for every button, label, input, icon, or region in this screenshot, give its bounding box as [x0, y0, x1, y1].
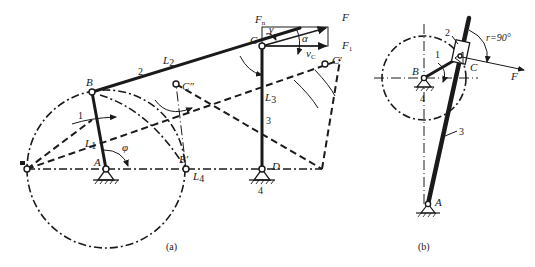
rocker-Cdprime	[176, 84, 322, 169]
label-gamma: γ	[269, 23, 274, 35]
angle-arc-C	[240, 56, 262, 75]
label-F: F	[341, 11, 349, 23]
label-link-2: 2	[138, 66, 143, 77]
gamma-arc-b	[469, 30, 487, 62]
leader-3	[445, 131, 457, 136]
joint-Cdprime	[173, 81, 179, 87]
coupler-link-2	[92, 28, 300, 92]
label-link-2-b: 2	[445, 27, 450, 38]
joint-A	[103, 166, 109, 172]
label-F1: F1	[341, 39, 353, 53]
label-vC: vC	[306, 47, 316, 61]
joint-D	[259, 166, 265, 172]
label-link-1: 1	[78, 110, 83, 121]
label-A: A	[93, 156, 101, 168]
figure-a: B A B′ C C′ C″ D 1 2 3 4 L1 L2 L3 L4 φ γ…	[20, 11, 353, 253]
angle-arc-Cdprime	[155, 100, 192, 112]
label-L3: L3	[264, 91, 276, 105]
label-B-b: B	[412, 65, 419, 77]
label-F-b: F	[510, 70, 518, 82]
label-alpha: α	[302, 32, 308, 44]
arc-Cprime-1	[294, 80, 318, 108]
joint-C-b	[458, 54, 462, 58]
label-L4: L4	[192, 170, 204, 184]
label-Bprime: B′	[179, 153, 189, 165]
label-link-4-b: 4	[420, 93, 425, 104]
joint-dead-point	[24, 166, 30, 172]
label-Cdprime: C″	[182, 80, 194, 92]
label-Cprime: C′	[332, 54, 342, 66]
label-D: D	[271, 160, 280, 172]
mechanism-figure: B A B′ C C′ C″ D 1 2 3 4 L1 L2 L3 L4 φ γ…	[0, 0, 535, 267]
label-link-3: 3	[266, 115, 271, 126]
caption-b: (b)	[418, 241, 430, 253]
label-gamma-b: r=90°	[486, 32, 511, 43]
label-link-1-b: 1	[435, 49, 440, 60]
arc-Cprime-2	[315, 70, 335, 96]
arc-Cdprime	[100, 95, 186, 169]
rocker-Cprime	[322, 60, 340, 169]
label-link-3-b: 3	[459, 126, 464, 137]
caption-a: (a)	[166, 241, 177, 253]
label-link-4: 4	[258, 185, 263, 196]
alpha-arc	[296, 28, 300, 54]
label-C: C	[250, 34, 258, 46]
label-L1: L1	[84, 137, 96, 151]
joint-C	[259, 43, 265, 49]
joint-Cprime	[322, 61, 328, 67]
joint-Bprime	[183, 166, 189, 172]
label-A-b: A	[434, 196, 442, 208]
joint-A-b	[425, 201, 430, 206]
label-B: B	[86, 76, 93, 88]
label-phi: φ	[122, 141, 128, 153]
joint-B-b	[421, 75, 426, 80]
label-C-b: C	[470, 61, 478, 73]
figure-b: B C A 1 2 3 4 r=90° F (b)	[374, 18, 524, 253]
joint-B	[89, 89, 95, 95]
label-L2: L2	[162, 54, 174, 68]
dead-point-crank	[27, 120, 92, 169]
label-Fn: Fn	[254, 13, 266, 27]
dead-point-marker	[20, 161, 25, 165]
